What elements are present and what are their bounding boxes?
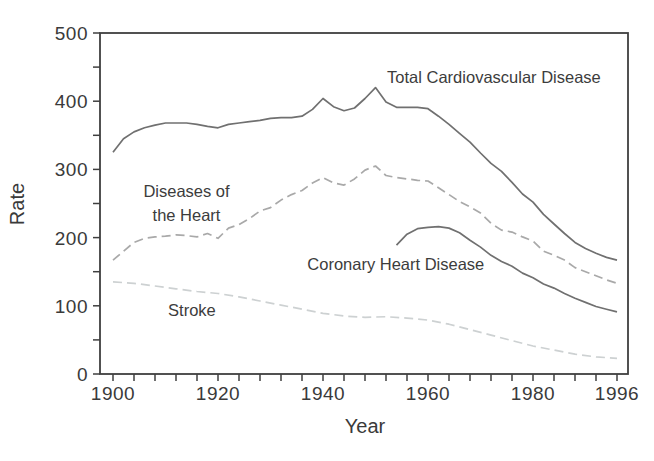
y-tick-label: 300: [55, 159, 88, 180]
x-tick-label: 1900: [91, 383, 135, 404]
x-tick-label: 1920: [196, 383, 240, 404]
series-labels: Total Cardiovascular DiseaseDiseases oft…: [143, 68, 600, 319]
line-stroke: [113, 282, 617, 358]
series-label: Total Cardiovascular Disease: [387, 68, 601, 86]
x-tick-label: 1960: [406, 383, 450, 404]
x-tick-label: 1980: [511, 383, 555, 404]
x-tick-label: 1996: [595, 383, 639, 404]
series-label: Stroke: [168, 301, 216, 319]
y-tick-label: 200: [55, 228, 88, 249]
y-tick-label: 500: [55, 23, 88, 44]
y-axis-title: Rate: [6, 183, 28, 225]
cvd-mortality-line-chart: 0100200300400500 19001920194019601980199…: [0, 0, 654, 461]
x-axis-ticks: [113, 374, 617, 381]
x-tick-label: 1940: [301, 383, 345, 404]
series-label: Diseases of: [143, 182, 230, 200]
line-total-cardiovascular-disease: [113, 88, 617, 261]
y-axis-ticks: [93, 33, 100, 374]
y-tick-label: 0: [77, 364, 88, 385]
x-axis-title: Year: [345, 415, 386, 437]
y-tick-label: 400: [55, 91, 88, 112]
series-label: Coronary Heart Disease: [307, 255, 484, 273]
chart-figure: 0100200300400500 19001920194019601980199…: [0, 0, 654, 461]
series-label: the Heart: [153, 206, 221, 224]
y-tick-label: 100: [55, 296, 88, 317]
y-axis-tick-labels: 0100200300400500: [55, 23, 88, 385]
x-axis-tick-labels: 190019201940196019801996: [91, 383, 639, 404]
